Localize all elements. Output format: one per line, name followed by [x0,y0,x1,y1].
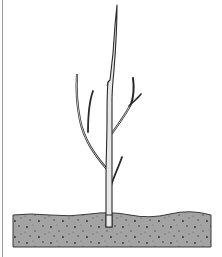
sapling-illustration [0,0,222,257]
trunk [106,5,117,227]
right-branch [110,78,141,136]
left-branch [77,75,106,168]
trunk-base [106,215,112,227]
lower-twig [111,157,122,186]
